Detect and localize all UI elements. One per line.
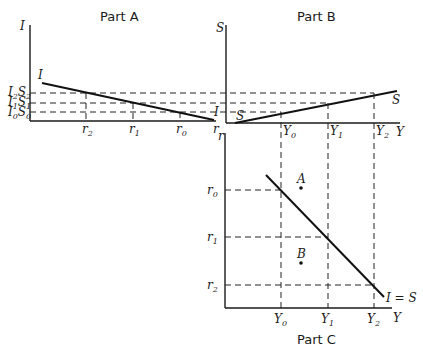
part-c-x-tick-y0: Y0 (274, 312, 287, 328)
part-a-x-tick-r2: r2 (82, 122, 93, 138)
saving-curve-start-label: S (236, 109, 244, 123)
point-b (299, 261, 303, 265)
investment-curve (42, 83, 214, 120)
part-c-y-axis-label: r (218, 129, 225, 143)
saving-curve (235, 91, 397, 123)
part-a-x-tick-r1: r1 (129, 122, 140, 138)
part-b-x-tick-y2: Y2 (376, 124, 389, 140)
is-lm-diagram: Part A I r I I I2S2 I1S1 I0S0 r2 r1 r0 (0, 0, 423, 351)
part-c-y-tick-r0: r0 (207, 183, 218, 199)
saving-curve-label: S (392, 93, 400, 107)
part-b: Part B S Y S S Y0 Y1 Y2 (216, 9, 405, 140)
part-c-y-tick-r1: r1 (207, 230, 218, 246)
part-a-x-tick-r0: r0 (176, 122, 187, 138)
part-b-x-tick-y0: Y0 (283, 124, 296, 140)
investment-curve-end-label: I (213, 105, 219, 119)
is-curve-label: I = S (385, 291, 417, 305)
part-c-title: Part C (297, 332, 336, 347)
part-b-x-axis-label: Y (396, 125, 405, 139)
part-b-x-tick-y1: Y1 (330, 124, 343, 140)
part-c: r Y I = S A B r0 r1 r2 Y0 Y1 Y2 Part C (207, 129, 417, 347)
part-b-title: Part B (297, 9, 336, 24)
part-c-x-axis-label: Y (393, 311, 402, 325)
part-b-y-axis-label: S (216, 21, 224, 35)
point-a-label: A (296, 172, 306, 186)
part-c-x-tick-y2: Y2 (367, 312, 380, 328)
part-a-y-axis-label: I (19, 19, 25, 33)
part-a: Part A I r I I I2S2 I1S1 I0S0 r2 r1 r0 (7, 9, 374, 138)
part-c-y-tick-r2: r2 (207, 278, 218, 294)
part-a-title: Part A (100, 9, 139, 24)
is-curve (266, 175, 384, 297)
point-a (299, 186, 303, 190)
investment-curve-label: I (37, 68, 43, 82)
part-c-x-tick-y1: Y1 (321, 312, 334, 328)
point-b-label: B (296, 247, 306, 261)
